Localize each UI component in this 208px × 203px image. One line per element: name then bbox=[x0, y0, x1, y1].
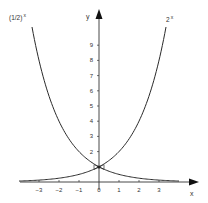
y-tick-label: 9 bbox=[90, 42, 94, 48]
y-tick-label: 4 bbox=[90, 118, 94, 124]
y-tick-label: 2 bbox=[90, 149, 94, 155]
exponential-functions-chart: x y −3−2−10123 23456789 (1/2)x 2x bbox=[0, 0, 208, 203]
curve-half-pow-x bbox=[32, 27, 179, 181]
y-tick-label: 3 bbox=[90, 133, 94, 139]
label-half-pow-x: (1/2)x bbox=[9, 12, 26, 22]
y-tick-label: 8 bbox=[90, 57, 94, 63]
y-tick-label: 7 bbox=[90, 73, 94, 79]
y-tick-label: 6 bbox=[90, 88, 94, 94]
x-tick-label: 0 bbox=[97, 187, 101, 193]
y-axis-label: y bbox=[86, 13, 90, 21]
x-axis-arrow-icon bbox=[189, 179, 199, 186]
x-tick-label: 1 bbox=[117, 187, 121, 193]
x-axis-label: x bbox=[190, 190, 194, 197]
x-tick-label: −1 bbox=[76, 187, 84, 193]
x-tick-label: 3 bbox=[157, 187, 161, 193]
label-two-pow-x: 2x bbox=[166, 14, 174, 23]
y-tick-label: 5 bbox=[90, 103, 94, 109]
y-axis-arrow-icon bbox=[96, 9, 103, 19]
axes: x y bbox=[20, 9, 199, 197]
x-tick-label: −2 bbox=[56, 187, 64, 193]
y-ticks: 23456789 bbox=[90, 42, 99, 167]
x-tick-label: −3 bbox=[36, 187, 44, 193]
x-tick-label: 2 bbox=[137, 187, 141, 193]
